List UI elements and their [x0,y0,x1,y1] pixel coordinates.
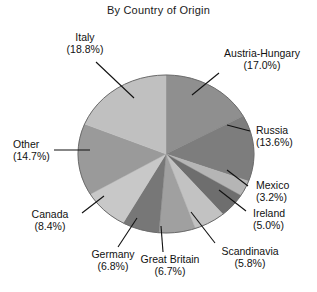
slice-label-other-percent: (14.7%) [13,150,75,162]
pie-chart-figure: By Country of Origin Italy (18.8%) Austr… [0,0,317,292]
slice-label-germany-percent: (6.8%) [79,260,147,272]
slice-label-russia-name: Russia [256,124,316,136]
slice-label-ireland: Ireland (5.0%) [253,207,315,231]
slice-label-canada-percent: (8.4%) [19,220,81,232]
slice-label-ireland-name: Ireland [253,207,315,219]
slice-label-italy-percent: (18.8%) [56,43,114,55]
slice-label-germany-name: Germany [79,248,147,260]
slice-label-mexico-percent: (3.2%) [256,191,316,203]
slice-label-ireland-percent: (5.0%) [253,219,315,231]
slice-label-russia-percent: (13.6%) [256,136,316,148]
slice-label-scandinavia-name: Scandinavia [212,245,288,257]
slice-label-austria-hungary: Austria-Hungary (17.0%) [212,47,312,71]
slice-label-austria-hungary-name: Austria-Hungary [212,47,312,59]
slice-label-canada-name: Canada [19,208,81,220]
slice-label-mexico: Mexico (3.2%) [256,179,316,203]
slice-label-other-name: Other [13,138,75,150]
slice-label-scandinavia-percent: (5.8%) [212,257,288,269]
pie-slices-group [78,75,254,233]
slice-label-scandinavia: Scandinavia (5.8%) [212,245,288,269]
slice-label-other: Other (14.7%) [13,138,75,162]
slice-label-canada: Canada (8.4%) [19,208,81,232]
slice-label-italy: Italy (18.8%) [56,31,114,55]
slice-label-italy-name: Italy [56,31,114,43]
slice-label-germany: Germany (6.8%) [79,248,147,272]
slice-label-mexico-name: Mexico [256,179,316,191]
slice-label-austria-hungary-percent: (17.0%) [212,59,312,71]
slice-label-russia: Russia (13.6%) [256,124,316,148]
